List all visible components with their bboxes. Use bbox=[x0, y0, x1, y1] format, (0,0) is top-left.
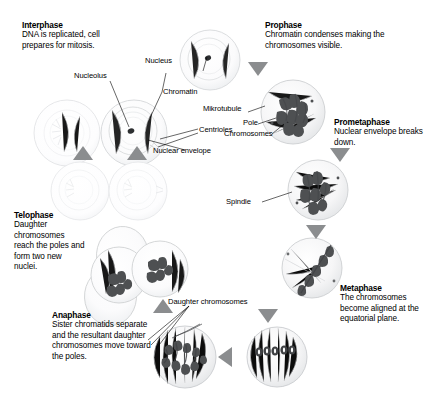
callout-label-chromatin: Chromatin bbox=[163, 87, 197, 96]
callout-label-spindle: Spindle bbox=[226, 197, 251, 206]
cell-metaphase-plate bbox=[247, 327, 307, 387]
phase-title-interphase: Interphase bbox=[22, 20, 118, 30]
cell-interphase-g2 bbox=[180, 30, 240, 90]
mitosis-diagram: Interphase DNA is replicated, cell prepa… bbox=[0, 0, 432, 403]
callout-label-nucleolus: Nucleolus bbox=[74, 71, 107, 80]
phase-description-telophase: Daughter chromosomes reach the poles and… bbox=[14, 220, 86, 272]
cell-metaphase bbox=[282, 238, 342, 298]
phase-block-prophase: Prophase Chromatin condenses making the … bbox=[265, 20, 425, 51]
arrow-to-prometaphase bbox=[330, 148, 350, 162]
phase-description-interphase: DNA is replicated, cell prepares for mit… bbox=[22, 30, 118, 51]
phase-title-telophase: Telophase bbox=[14, 210, 86, 220]
callout-label-daughter-chromosomes: Daughter chromosomes bbox=[168, 297, 248, 306]
arrow-anaphase-left bbox=[218, 347, 232, 367]
phase-description-metaphase: The chromosomes become aligned at the eq… bbox=[340, 293, 430, 324]
arrow-to-metaphase bbox=[306, 225, 326, 239]
phase-description-anaphase: Sister chromatids separate and the resul… bbox=[52, 320, 156, 362]
cell-prometaphase bbox=[288, 160, 348, 220]
arrow-to-prophase bbox=[248, 62, 268, 76]
cell-anaphase bbox=[154, 324, 216, 388]
phase-block-metaphase: Metaphase The chromosomes become aligned… bbox=[340, 283, 430, 325]
callout-label-mikrotubule: Mikrotubule bbox=[203, 104, 241, 113]
callout-label-nucleus: Nucleus bbox=[145, 56, 172, 65]
phase-block-anaphase: Anaphase Sister chromatids separate and … bbox=[52, 310, 156, 362]
phase-block-prometaphase: Prometaphase Nuclear envelope breaks dow… bbox=[334, 117, 430, 148]
cell-daughter-right bbox=[109, 162, 167, 220]
callout-label-nuclear-envelope: Nuclear envelope bbox=[153, 146, 211, 155]
leader-spindle bbox=[262, 192, 292, 202]
phase-title-metaphase: Metaphase bbox=[340, 283, 430, 293]
phase-block-telophase: Telophase Daughter chromosomes reach the… bbox=[14, 210, 86, 272]
arrow-to-anaphase bbox=[258, 309, 278, 323]
phase-title-anaphase: Anaphase bbox=[52, 310, 156, 320]
callout-label-pole: Pole bbox=[243, 118, 258, 127]
callout-label-centrioles: Centrioles bbox=[199, 125, 232, 134]
phase-description-prometaphase: Nuclear envelope breaks down. bbox=[334, 127, 430, 148]
phase-title-prometaphase: Prometaphase bbox=[334, 117, 430, 127]
phase-description-prophase: Chromatin condenses making the chromosom… bbox=[265, 30, 425, 51]
phase-title-prophase: Prophase bbox=[265, 20, 425, 30]
phase-block-interphase: Interphase DNA is replicated, cell prepa… bbox=[22, 20, 118, 51]
